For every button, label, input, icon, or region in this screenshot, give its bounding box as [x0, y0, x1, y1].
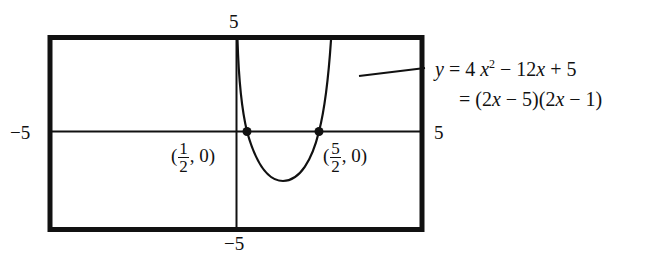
fraction-five-halves: 52	[330, 140, 341, 175]
annotation-leader-line	[359, 68, 425, 76]
equation-line-2: = (2x − 5)(2x − 1)	[459, 89, 602, 109]
parabola-curve	[238, 40, 332, 181]
point-label-half: (12, 0)	[171, 140, 215, 175]
y-max-label: 5	[229, 12, 239, 31]
equation-line-1: y = 4 x2 − 12x + 5	[435, 58, 577, 79]
x-intercept-point-1	[243, 127, 252, 136]
point-label-five-halves: (52, 0)	[323, 140, 367, 175]
graph-canvas	[0, 0, 645, 263]
x-max-label: 5	[434, 123, 444, 142]
x-intercept-point-2	[315, 127, 324, 136]
fraction-one-half: 12	[178, 140, 189, 175]
y-min-label: −5	[224, 234, 244, 253]
x-min-label: −5	[10, 123, 30, 142]
